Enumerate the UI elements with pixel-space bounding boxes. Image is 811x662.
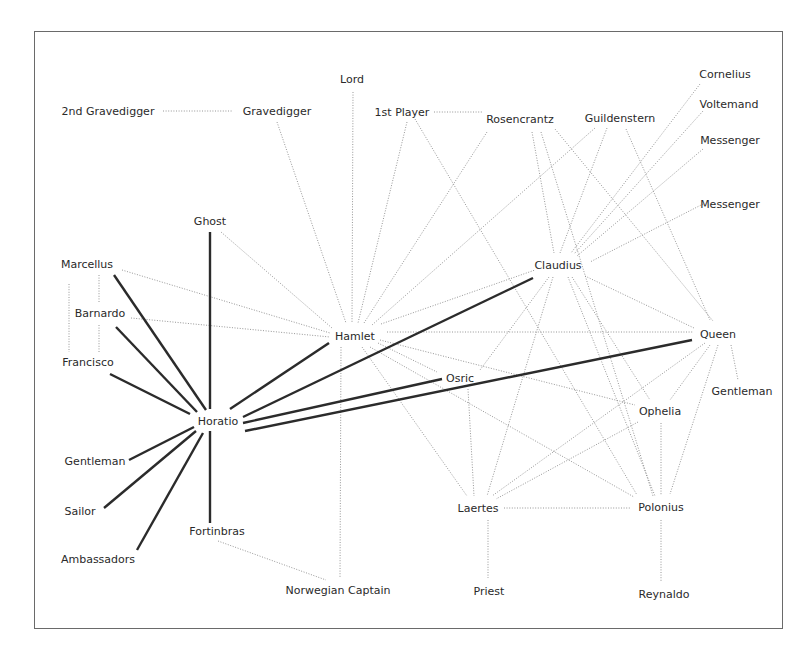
weak-edge-ghost-hamlet	[221, 232, 332, 328]
weak-edge-hamlet-laertes	[362, 347, 467, 496]
weak-edge-gravedigger-hamlet	[277, 122, 346, 323]
weak-edge-guildenstern-hamlet	[372, 128, 595, 325]
strong-edges-layer	[104, 232, 692, 550]
weak-edge-queen-polonius	[670, 345, 718, 494]
node-horatio: Horatio	[198, 416, 238, 427]
node-ambassadors: Ambassadors	[61, 554, 135, 565]
strong-edge-horatio-barnardo	[116, 327, 197, 412]
weak-edge-fortinbras-norwegian_captain	[218, 541, 326, 580]
strong-edge-horatio-osric	[243, 379, 442, 423]
weak-edge-claudius-ophelia	[572, 277, 650, 400]
weak-edge-voltemand-claudius	[574, 111, 703, 254]
node-cornelius: Cornelius	[699, 69, 750, 80]
node-messenger1: Messenger	[700, 135, 760, 146]
weak-edge-claudius-queen	[585, 276, 694, 328]
node-hamlet: Hamlet	[335, 331, 375, 342]
node-gravedigger: Gravedigger	[243, 106, 311, 117]
node-marcellus: Marcellus	[61, 259, 113, 270]
strong-edge-horatio-francisco	[110, 374, 190, 414]
weak-edge-queen-ophelia	[670, 345, 710, 400]
node-messenger2: Messenger	[700, 199, 760, 210]
weak-edge-player1-hamlet	[358, 122, 407, 323]
node-gentleman_r: Gentleman	[712, 386, 773, 397]
weak-edge-rosencrantz-hamlet	[364, 132, 487, 323]
node-player1: 1st Player	[375, 107, 430, 118]
weak-edge-claudius-polonius	[568, 277, 655, 496]
node-queen: Queen	[700, 329, 736, 340]
node-francisco: Francisco	[62, 357, 113, 368]
weak-edge-queen-laertes	[492, 343, 705, 496]
weak-edge-barnardo-hamlet	[131, 318, 330, 337]
weak-edge-rosencrantz-claudius	[532, 132, 554, 253]
weak-edge-claudius-osric	[480, 277, 549, 370]
strong-edge-horatio-marcellus	[114, 275, 206, 410]
weak-edge-player1-polonius	[415, 119, 637, 495]
weak-edge-rosencrantz-queen	[555, 129, 713, 321]
node-claudius: Claudius	[534, 260, 581, 271]
node-rosencrantz: Rosencrantz	[486, 114, 554, 125]
node-guildenstern: Guildenstern	[585, 113, 655, 124]
node-sailor: Sailor	[64, 506, 95, 517]
node-fortinbras: Fortinbras	[189, 526, 245, 537]
node-polonius: Polonius	[638, 502, 684, 513]
node-gentleman_l: Gentleman	[65, 456, 126, 467]
weak-edge-cornelius-claudius	[571, 84, 700, 253]
node-osric: Osric	[446, 373, 474, 384]
strong-edge-horatio-claudius	[243, 278, 533, 417]
node-norwegian_captain: Norwegian Captain	[286, 585, 391, 596]
weak-edge-messenger1-claudius	[577, 149, 703, 256]
node-laertes: Laertes	[458, 503, 499, 514]
node-reynaldo: Reynaldo	[639, 589, 690, 600]
node-voltemand: Voltemand	[700, 99, 759, 110]
weak-edge-messenger2-claudius	[590, 204, 703, 262]
weak-edge-rosencrantz-polonius	[541, 132, 653, 496]
node-lord: Lord	[340, 74, 364, 85]
weak-edge-hamlet-norwegian_captain	[340, 347, 341, 578]
weak-edge-lord-hamlet	[352, 92, 353, 323]
node-gravedigger2: 2nd Gravedigger	[62, 106, 155, 117]
weak-edge-claudius-laertes	[487, 277, 553, 496]
weak-edge-osric-laertes	[468, 389, 474, 496]
strong-edge-horatio-gentleman_l	[129, 427, 194, 460]
weak-edge-guildenstern-claudius	[560, 128, 607, 253]
weak-edge-guildenstern-queen	[626, 129, 710, 320]
node-ophelia: Ophelia	[639, 406, 681, 417]
node-ghost: Ghost	[194, 216, 226, 227]
weak-edge-marcellus-hamlet	[122, 270, 330, 333]
weak-edge-queen-gentleman_r	[731, 345, 738, 380]
node-priest: Priest	[474, 586, 505, 597]
node-barnardo: Barnardo	[75, 308, 125, 319]
